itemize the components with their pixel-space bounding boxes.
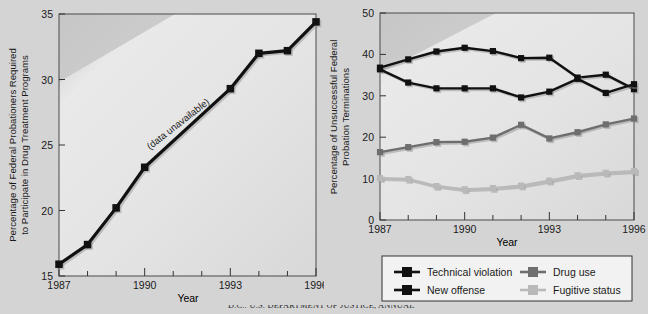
data-point-marker (433, 48, 439, 54)
y-tick-label: 25 (41, 139, 53, 151)
x-axis-title-right: Year (496, 236, 518, 248)
y-axis-label-left-line2: to Participate in Drug Treatment Program… (19, 55, 30, 235)
legend-marker-0 (402, 267, 412, 277)
data-point-marker (546, 178, 552, 184)
data-point-marker (405, 79, 411, 85)
data-point-marker (490, 185, 496, 191)
legend-label-0: Technical violation (427, 266, 512, 278)
data-point-marker (227, 85, 235, 93)
y-tick-label: 10 (362, 173, 374, 185)
data-point-marker (462, 85, 468, 91)
data-point-marker (84, 241, 92, 249)
y-tick-label: 20 (41, 205, 53, 217)
data-point-marker (546, 89, 552, 95)
data-point-marker (574, 172, 580, 178)
chart-panel-left: 1520253035 1987199019931996 (data unavai… (0, 0, 324, 314)
data-point-marker (490, 48, 496, 54)
data-point-marker (405, 144, 411, 150)
x-axis-title-left: Year (177, 292, 199, 304)
data-point-marker (255, 50, 263, 58)
data-point-marker (518, 183, 524, 189)
x-tick-label: 1990 (133, 279, 157, 291)
y-axis-label-left: Percentage of Federal Probationers Requi… (7, 48, 30, 242)
data-point-marker (546, 55, 552, 61)
x-tick-label: 1993 (219, 279, 243, 291)
data-point-marker (631, 115, 637, 121)
x-tick-label: 1996 (304, 279, 324, 291)
source-note-text: D.C.: U.S. DEPARTMENT OF JUSTICE, ANNUAL (228, 305, 415, 310)
figure-two-line-charts: 1520253035 1987199019931996 (data unavai… (0, 0, 648, 314)
legend-label-3: Fugitive status (553, 284, 621, 296)
y-tick-label: 40 (362, 48, 374, 60)
data-point-marker (433, 139, 439, 145)
legend-marker-3 (528, 285, 538, 295)
data-point-marker (462, 139, 468, 145)
data-point-marker (518, 94, 524, 100)
data-point-marker (377, 149, 383, 155)
data-point-marker (603, 170, 609, 176)
data-point-marker (603, 72, 609, 78)
data-point-marker (603, 121, 609, 127)
y-axis-label-right-line1: Percentage of Unsuccessful Federal (328, 40, 339, 195)
y-axis-label-right-line2: Probation Terminations (340, 68, 351, 166)
y-tick-label: 35 (41, 8, 53, 20)
data-point-marker (462, 45, 468, 51)
data-point-marker (490, 135, 496, 141)
data-point-marker (574, 129, 580, 135)
y-axis-label-right: Percentage of Unsuccessful Federal Proba… (328, 40, 351, 195)
right-chart-svg: 01020304050 1987199019931996 Percentage … (324, 0, 648, 314)
chart-panel-right: 01020304050 1987199019931996 Percentage … (324, 0, 648, 314)
data-point-marker (112, 204, 120, 212)
data-point-marker (546, 135, 552, 141)
data-point-marker (141, 164, 149, 172)
y-tick-label: 30 (41, 74, 53, 86)
x-tick-label: 1987 (368, 223, 392, 235)
data-point-marker (405, 56, 411, 62)
data-point-marker (631, 81, 637, 87)
legend-marker-2 (528, 267, 538, 277)
y-tick-label: 30 (362, 90, 374, 102)
data-point-marker (377, 66, 383, 72)
x-tick-label: 1996 (622, 223, 646, 235)
data-point-marker (433, 85, 439, 91)
data-point-marker (462, 186, 468, 192)
x-tick-label: 1990 (453, 223, 477, 235)
data-point-marker (603, 90, 609, 96)
data-point-marker (405, 176, 411, 182)
data-point-marker (433, 183, 439, 189)
left-chart-svg: 1520253035 1987199019931996 (data unavai… (0, 0, 324, 314)
data-point-marker (518, 122, 524, 128)
y-axis-label-left-line1: Percentage of Federal Probationers Requi… (7, 48, 18, 242)
x-tick-label: 1987 (47, 279, 71, 291)
data-point-marker (574, 76, 580, 82)
source-note: D.C.: U.S. DEPARTMENT OF JUSTICE, ANNUAL (0, 305, 648, 314)
data-point-marker (312, 18, 320, 26)
x-tick-label: 1993 (538, 223, 562, 235)
data-point-marker (55, 260, 63, 268)
legend-label-2: Drug use (553, 266, 596, 278)
data-point-marker (377, 175, 383, 181)
y-tick-label: 50 (362, 7, 374, 19)
legend-label-1: New offense (427, 284, 485, 296)
data-point-marker (490, 85, 496, 91)
legend-marker-1 (402, 285, 412, 295)
data-point-marker (631, 168, 637, 174)
data-point-marker (284, 47, 292, 55)
y-tick-label: 20 (362, 131, 374, 143)
data-point-marker (518, 55, 524, 61)
